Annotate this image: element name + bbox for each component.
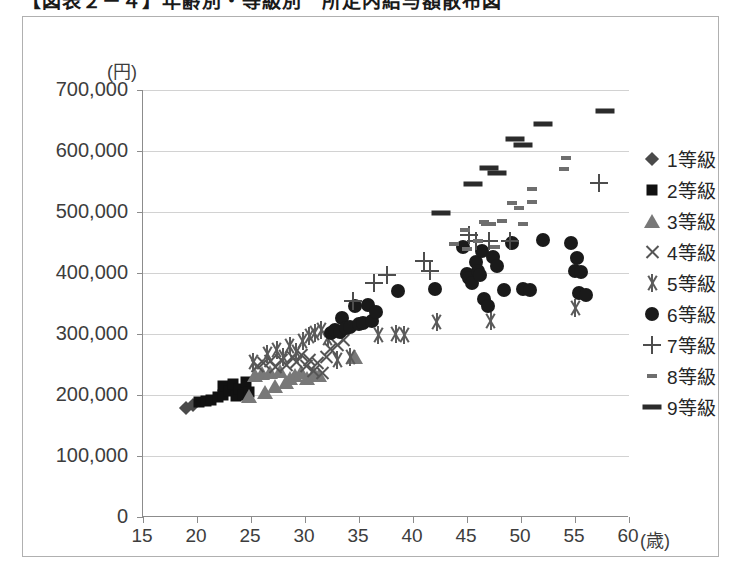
data-point xyxy=(305,362,323,380)
x-tick-mark xyxy=(575,517,576,523)
data-point xyxy=(262,365,278,379)
legend-item-4[interactable]: 4等級 xyxy=(639,236,741,267)
data-point xyxy=(527,200,537,204)
data-point xyxy=(267,379,283,393)
y-tick-mark xyxy=(137,334,143,335)
legend-item-1[interactable]: 1等級 xyxy=(639,143,741,174)
legend-item-5[interactable]: 5等級 xyxy=(639,267,741,298)
data-point xyxy=(497,283,511,297)
data-point xyxy=(479,220,489,224)
x-tick-label: 40 xyxy=(387,526,437,546)
data-point xyxy=(490,259,504,273)
data-point xyxy=(300,351,318,369)
data-point xyxy=(482,312,500,330)
data-point xyxy=(293,346,311,364)
data-point xyxy=(481,299,495,313)
data-point xyxy=(311,368,327,382)
y-tick-mark xyxy=(137,273,143,274)
data-point xyxy=(449,242,459,246)
data-point xyxy=(514,142,533,147)
data-point xyxy=(469,255,483,269)
data-point xyxy=(268,341,286,359)
data-point xyxy=(287,353,305,371)
data-point xyxy=(428,313,446,331)
data-point xyxy=(300,327,318,345)
data-point xyxy=(464,181,483,186)
data-point xyxy=(200,396,211,407)
data-point xyxy=(596,109,615,114)
data-point xyxy=(507,201,517,205)
data-point xyxy=(475,244,489,258)
data-point xyxy=(272,364,288,378)
data-point xyxy=(227,379,238,390)
x-tick-mark xyxy=(359,517,360,523)
data-point xyxy=(306,324,324,342)
data-point xyxy=(313,364,331,382)
y-tick-mark xyxy=(137,395,143,396)
data-point xyxy=(287,343,305,361)
data-point xyxy=(272,351,290,369)
data-point xyxy=(497,219,507,223)
data-point xyxy=(456,240,470,254)
data-point xyxy=(415,252,433,270)
data-point xyxy=(240,376,251,387)
data-point xyxy=(421,262,439,280)
data-point xyxy=(579,288,593,302)
legend-item-2[interactable]: 2等級 xyxy=(639,174,741,205)
y-tick-label: 700,000 xyxy=(23,79,128,99)
y-tick-label: 100,000 xyxy=(23,445,128,465)
y-tick-label: 300,000 xyxy=(23,323,128,343)
data-point xyxy=(179,401,193,415)
data-point xyxy=(518,222,528,226)
legend-item-label: 6等級 xyxy=(667,300,716,327)
gridline xyxy=(143,273,629,274)
data-point xyxy=(523,283,537,297)
data-point xyxy=(347,350,363,364)
data-point xyxy=(309,354,327,372)
legend-item-6[interactable]: 6等級 xyxy=(639,298,741,329)
data-point xyxy=(283,348,301,366)
page-title-text: 【図表２－４】年齢別・等級別 所定内給与額散布図 xyxy=(22,0,502,13)
data-point xyxy=(486,250,500,264)
data-point xyxy=(590,174,608,192)
x-tick-label: 30 xyxy=(279,526,329,546)
data-point xyxy=(490,245,500,249)
data-point xyxy=(462,247,472,251)
data-point xyxy=(514,206,524,210)
square-icon xyxy=(639,177,665,203)
data-point xyxy=(257,385,273,399)
x-tick-label: 25 xyxy=(225,526,275,546)
clipped-page-title: 【図表２－４】年齢別・等級別 所定内給与額散布図 xyxy=(0,0,741,14)
legend-item-label: 1等級 xyxy=(667,145,716,172)
x-tick-mark xyxy=(143,517,144,523)
circle-icon xyxy=(639,301,665,327)
data-point xyxy=(477,292,491,306)
legend-item-7[interactable]: 7等級 xyxy=(639,329,741,360)
x-tick-label: 15 xyxy=(117,526,167,546)
data-point xyxy=(369,326,387,344)
data-point xyxy=(312,321,330,339)
data-point xyxy=(574,265,588,279)
data-point xyxy=(533,121,552,126)
x-tick-label: 35 xyxy=(333,526,383,546)
data-point xyxy=(505,136,524,141)
data-point xyxy=(527,187,537,191)
cross-icon xyxy=(639,239,665,265)
data-point xyxy=(378,266,396,284)
gridline xyxy=(143,151,629,152)
triangle-icon xyxy=(639,208,665,234)
gridline xyxy=(143,90,629,91)
data-point xyxy=(194,397,205,408)
legend-item-8[interactable]: 8等級 xyxy=(639,360,741,391)
legend-item-label: 7等級 xyxy=(667,331,716,358)
data-point xyxy=(278,375,294,389)
data-point xyxy=(318,348,336,366)
data-point xyxy=(258,345,276,363)
data-point xyxy=(328,351,346,369)
legend-item-3[interactable]: 3等級 xyxy=(639,205,741,236)
data-point xyxy=(293,365,309,379)
x-tick-mark xyxy=(305,517,306,523)
legend-item-label: 8等級 xyxy=(667,362,716,389)
legend-item-9[interactable]: 9等級 xyxy=(639,391,741,422)
data-point xyxy=(319,329,337,347)
